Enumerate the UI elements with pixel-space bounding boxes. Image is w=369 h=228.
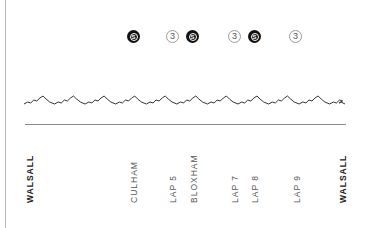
label-lap-7: LAP 7: [230, 175, 240, 203]
label-start-walsall: WALSALL: [25, 155, 35, 203]
route-baseline: [25, 124, 346, 125]
label-bloxham: BLOXHAM: [189, 154, 199, 203]
label-end-walsall: WALSALL: [338, 155, 348, 203]
label-culham: CULHAM: [129, 161, 139, 203]
elevation-profile-line: [0, 0, 369, 228]
label-lap-8: LAP 8: [250, 175, 260, 203]
label-lap-9: LAP 9: [292, 175, 302, 203]
label-lap-5: LAP 5: [168, 175, 178, 203]
